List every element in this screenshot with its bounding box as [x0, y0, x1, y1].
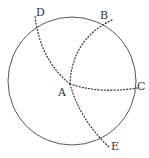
spherical-geometry-diagram: A B C D E: [0, 0, 149, 158]
outer-circle: [8, 17, 136, 145]
arc-AB: [70, 19, 114, 84]
arc-AC: [70, 84, 137, 90]
label-point-C: C: [137, 80, 145, 93]
label-point-E: E: [111, 140, 119, 153]
label-point-D: D: [36, 6, 45, 19]
arc-AD: [35, 16, 70, 84]
label-point-A: A: [57, 86, 67, 99]
label-point-B: B: [100, 9, 108, 22]
arc-AE: [70, 84, 110, 148]
